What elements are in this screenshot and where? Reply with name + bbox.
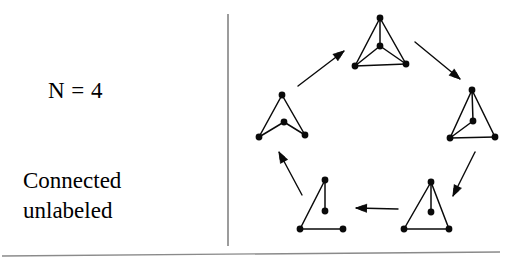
graph-vertex	[302, 132, 309, 139]
graph-edge	[355, 18, 380, 66]
arrow-layer	[279, 42, 475, 212]
graph-vertex	[281, 119, 288, 126]
arrow-head-inner	[356, 205, 364, 211]
graph-vertex	[256, 134, 263, 141]
graph-edge	[472, 90, 473, 121]
graph-vertex	[322, 208, 329, 215]
path-tree-four-vertices	[297, 177, 347, 233]
complete-graph-k4	[352, 15, 410, 70]
graph-vertex	[492, 134, 499, 141]
graph-edge	[472, 90, 495, 137]
graph-vertex	[447, 135, 454, 142]
graph-edge	[431, 182, 449, 229]
graph-vertex	[279, 92, 286, 99]
graph-layer	[256, 15, 499, 233]
diagram-canvas	[0, 0, 515, 274]
graph-vertex	[446, 226, 453, 233]
graph-edge	[282, 95, 305, 135]
graph-edge	[450, 137, 495, 138]
graph-vertex	[377, 15, 384, 22]
graph-vertex	[469, 87, 476, 94]
graph-isomorphism-figure: N = 4 Connected unlabeled	[0, 0, 515, 274]
graph-edge	[380, 46, 406, 64]
graph-vertex	[322, 177, 329, 184]
graph-vertex	[377, 43, 384, 50]
graph-vertex	[352, 63, 359, 70]
graph-vertex	[401, 226, 408, 233]
arrow-up-left	[279, 152, 302, 195]
graph-vertex	[470, 118, 477, 125]
graph-edge	[300, 180, 325, 229]
graph-edge	[355, 46, 380, 66]
graph-vertex	[297, 226, 304, 233]
graph-edge	[355, 64, 406, 66]
graph-vertex	[403, 61, 410, 68]
arrow-down-right	[415, 42, 460, 79]
bottom-horizontal-rule	[2, 252, 500, 256]
graph-vertex	[428, 179, 435, 186]
four-cycle	[256, 92, 309, 141]
triangle-with-pendant	[401, 179, 453, 233]
graph-edge	[380, 18, 406, 64]
arrow-left	[356, 204, 398, 212]
graph-vertex	[340, 226, 347, 233]
k4-minus-edge-diamond	[447, 87, 499, 142]
graph-edge	[404, 182, 431, 229]
arrow-up-right	[298, 51, 344, 86]
arrow-down-left	[453, 152, 475, 196]
graph-vertex	[428, 209, 435, 216]
